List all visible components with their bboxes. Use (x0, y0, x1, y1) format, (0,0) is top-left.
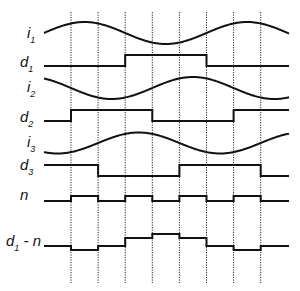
trace-d3 (44, 165, 289, 176)
trace-d1n (44, 234, 289, 250)
label-n: n (20, 186, 28, 203)
trace-i3 (44, 133, 289, 154)
trace-i1 (44, 22, 289, 44)
trace-labels: i1d1i2d2i3d3nd1 - n (6, 24, 41, 253)
trace-i2 (44, 77, 289, 99)
label-i3: i3 (27, 133, 35, 154)
trace-d1 (44, 55, 289, 66)
trace-n (44, 196, 289, 201)
sector-gridlines (71, 12, 261, 283)
traces (44, 22, 289, 250)
label-d1n: d1 - n (6, 232, 41, 253)
trace-d2 (44, 110, 289, 121)
label-d2: d2 (20, 108, 33, 129)
waveform-diagram: i1d1i2d2i3d3nd1 - n (0, 0, 300, 291)
label-i2: i2 (27, 78, 35, 99)
label-d1: d1 (20, 53, 33, 74)
label-d3: d3 (20, 156, 33, 177)
label-i1: i1 (27, 24, 35, 45)
